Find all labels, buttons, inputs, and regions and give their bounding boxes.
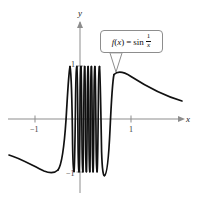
formula-denominator: x xyxy=(146,41,151,49)
x-axis-label: x xyxy=(186,115,190,124)
formula-close-paren: ) xyxy=(121,37,124,47)
formula-numerator: 1 xyxy=(146,33,152,40)
y-axis-label: y xyxy=(78,9,82,18)
y-tick-label-pos1: 1 xyxy=(71,61,75,69)
callout-formula: f(x)=sin1x xyxy=(101,31,162,52)
figure-sin-one-over-x: x y −1 1 1 −1 f(x)=sin1x xyxy=(0,0,197,201)
callout-tail xyxy=(110,53,122,73)
x-tick-label-neg1: −1 xyxy=(30,126,39,134)
formula-operator: sin xyxy=(133,37,144,47)
formula-equals: = xyxy=(126,37,131,47)
formula-fraction: 1x xyxy=(146,33,152,49)
y-tick-label-neg1: −1 xyxy=(66,170,75,178)
x-tick-label-pos1: 1 xyxy=(129,126,133,134)
callout-box: f(x)=sin1x xyxy=(100,30,163,53)
plot-area xyxy=(0,0,197,201)
